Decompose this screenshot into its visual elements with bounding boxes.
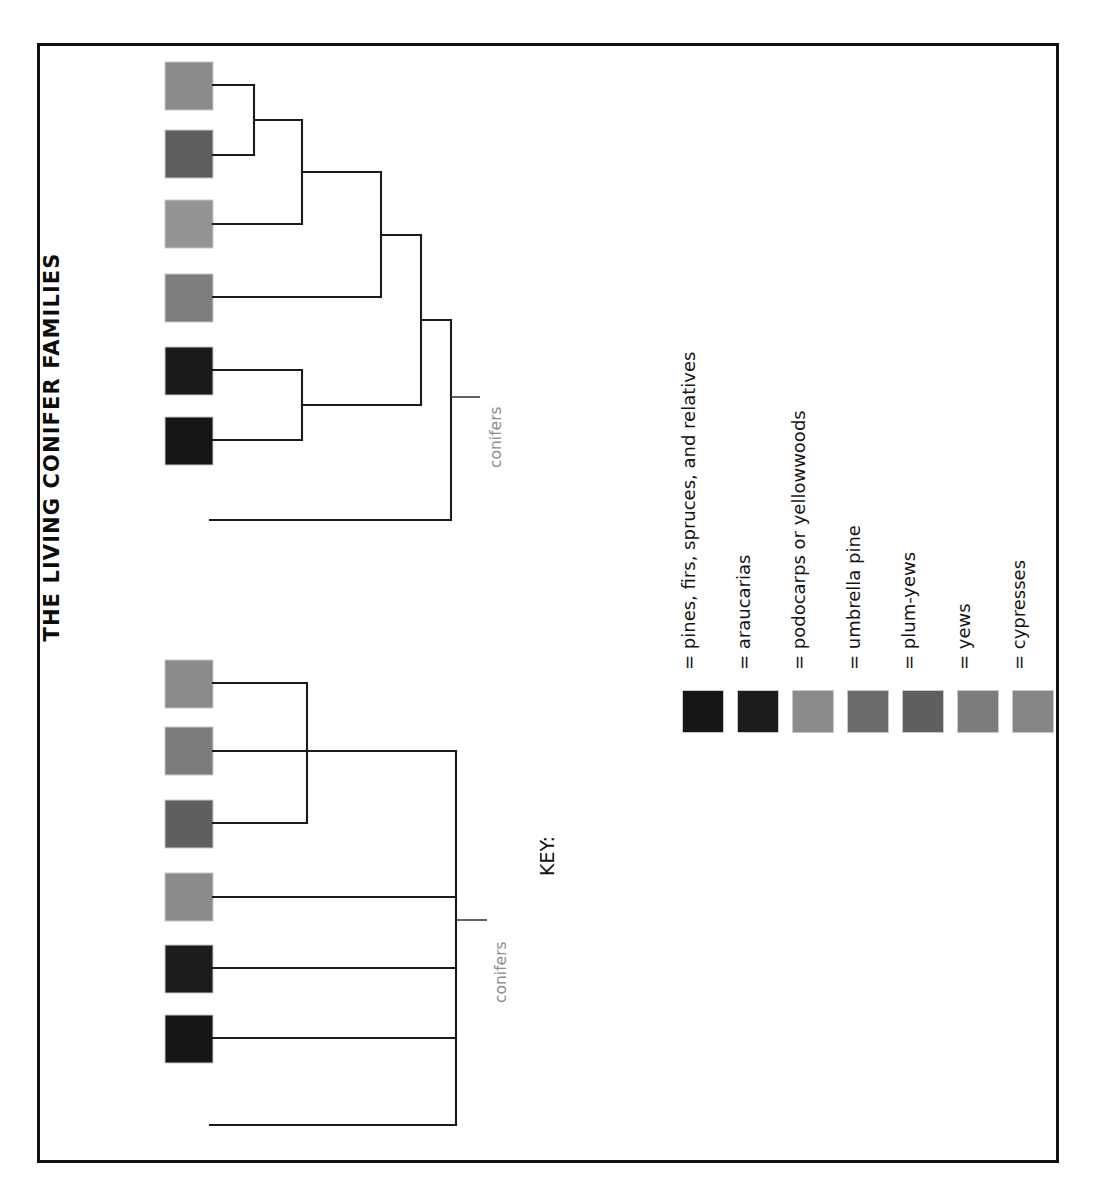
- taxon-box-cypresses: [165, 200, 213, 248]
- upper-cladogram: [150, 52, 480, 542]
- clade-label-conifers-lower: conifers: [492, 941, 510, 1003]
- key-swatch-podocarps: [792, 690, 834, 733]
- key-swatch-araucarias: [737, 690, 779, 733]
- key-swatch-yews: [957, 690, 999, 733]
- key-label-cypresses: = cypresses: [1008, 560, 1029, 670]
- key-heading: KEY:: [536, 836, 558, 876]
- key-swatch-pines: [682, 690, 724, 733]
- taxon-box-pines-2: [165, 1015, 213, 1063]
- lower-cladogram: [150, 655, 495, 1150]
- taxon-box-cypresses-2: [165, 660, 213, 708]
- taxon-box-plum-yews-2: [165, 800, 213, 848]
- key-legend: KEY: = pines, firs, spruces, and relativ…: [560, 250, 1030, 810]
- clade-label-conifers-upper: conifers: [487, 406, 505, 468]
- key-swatch-umbrella-pine: [847, 690, 889, 733]
- key-label-plum-yews: = plum-yews: [898, 552, 919, 670]
- taxon-box-podocarps-2: [165, 873, 213, 921]
- key-label-podocarps: = podocarps or yellowwoods: [788, 410, 809, 670]
- taxon-box-yews: [165, 274, 213, 322]
- taxon-box-yews-2: [165, 727, 213, 775]
- key-label-pines: = pines, firs, spruces, and relatives: [678, 352, 699, 670]
- taxon-box-araucarias: [165, 347, 213, 395]
- key-label-umbrella-pine: = umbrella pine: [843, 525, 864, 670]
- figure-root: THE LIVING CONIFER FAMILIES: [0, 0, 1095, 1203]
- key-label-araucarias: = araucarias: [733, 555, 754, 670]
- taxon-box-pines: [165, 417, 213, 465]
- taxon-box-umbrella-pine: [165, 130, 213, 178]
- key-label-yews: = yews: [953, 603, 974, 670]
- taxon-box-podocarps: [165, 62, 213, 110]
- taxon-box-araucarias-2: [165, 945, 213, 993]
- key-swatch-cypresses: [1012, 690, 1054, 733]
- key-swatch-plum-yews: [902, 690, 944, 733]
- page-title: THE LIVING CONIFER FAMILIES: [40, 237, 64, 657]
